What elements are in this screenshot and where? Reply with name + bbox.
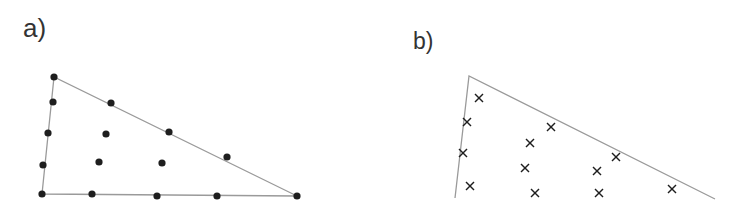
cross-marker bbox=[547, 123, 555, 131]
triangle-outline-a bbox=[42, 77, 297, 196]
dot-marker bbox=[102, 130, 109, 137]
dot-marker bbox=[153, 192, 160, 199]
dot-marker bbox=[213, 192, 220, 199]
dot-marker bbox=[107, 99, 114, 106]
diagram-canvas bbox=[0, 0, 742, 211]
dot-marker bbox=[44, 129, 51, 136]
dot-marker bbox=[88, 190, 95, 197]
cross-markers bbox=[459, 94, 676, 197]
cross-marker bbox=[595, 189, 603, 197]
cross-marker bbox=[668, 185, 676, 193]
cross-marker bbox=[466, 182, 474, 190]
cross-marker bbox=[475, 94, 483, 102]
cross-marker bbox=[521, 164, 529, 172]
outline-edge bbox=[42, 77, 297, 196]
outline-edge bbox=[455, 76, 715, 199]
dot-marker bbox=[50, 73, 57, 80]
cross-marker bbox=[593, 167, 601, 175]
dot-marker bbox=[95, 158, 102, 165]
dot-markers bbox=[38, 73, 300, 199]
dot-marker bbox=[158, 159, 165, 166]
dot-marker bbox=[165, 128, 172, 135]
triangle-outline-b bbox=[455, 76, 715, 199]
cross-marker bbox=[612, 153, 620, 161]
cross-marker bbox=[531, 189, 539, 197]
dot-marker bbox=[293, 192, 300, 199]
dot-marker bbox=[39, 161, 46, 168]
dot-marker bbox=[49, 98, 56, 105]
panel-a-triangle-dots bbox=[38, 73, 300, 199]
dot-marker bbox=[38, 190, 45, 197]
cross-marker bbox=[526, 139, 534, 147]
panel-b-triangle-crosses bbox=[455, 76, 715, 199]
dot-marker bbox=[223, 153, 230, 160]
